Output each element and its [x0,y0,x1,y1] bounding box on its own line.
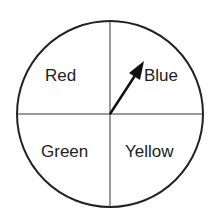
section-label-green: Green [41,143,88,160]
section-label-yellow: Yellow [125,143,174,160]
spinner [0,0,214,215]
section-label-red: Red [45,67,76,84]
section-label-blue: Blue [144,67,178,84]
